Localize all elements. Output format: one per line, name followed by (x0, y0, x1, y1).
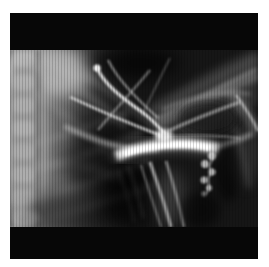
halftone-texture (10, 50, 258, 227)
xray-image (0, 0, 269, 267)
radiograph-figure (0, 0, 269, 267)
exposed-window (0, 46, 262, 236)
